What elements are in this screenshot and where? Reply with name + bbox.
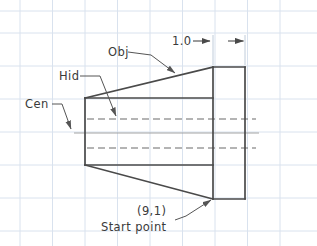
label-hid: Hid [59,69,79,83]
label-obj: Obj [108,45,129,59]
technical-drawing: Obj Hid Cen 1.0 (9,1) Start point [0,0,317,246]
object-line-top-taper [85,67,213,98]
start-point-leader-line [175,200,211,220]
start-point-coordinate: (9,1) [137,204,166,218]
dimension-label-1-0: 1.0 [172,34,192,48]
obj-leader-line [128,52,175,73]
hidden-lines-group [87,119,256,148]
cen-leader-line [52,104,71,129]
dimension-group-1-0 [193,35,245,65]
object-line-bottom-taper [85,165,213,199]
drawing-canvas: Obj Hid Cen 1.0 (9,1) Start point [0,0,317,246]
label-cen: Cen [25,97,49,111]
start-point-caption: Start point [101,220,167,234]
